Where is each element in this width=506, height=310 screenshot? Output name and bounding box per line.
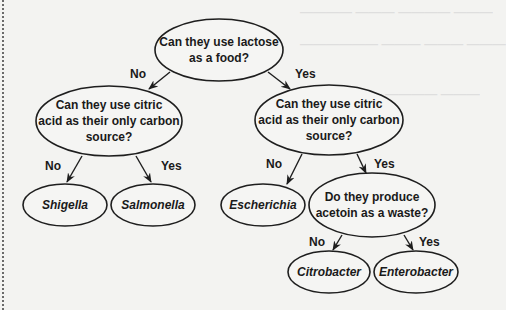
leaf-node-enterobacter: Enterobacter [374,251,458,293]
edge-arrow-citric-right-to-acetoin [357,154,366,173]
leaf-node-shigella: Shigella [23,184,107,226]
node-text-line: source? [86,130,133,144]
question-node-acetoin: Do they produceacetoin as a waste? [309,173,435,237]
node-text-line: source? [306,129,353,143]
edge-arrow-lactose-to-citric-right [268,72,290,89]
leaf-node-escherichia: Escherichia [221,184,305,226]
leaf-node-salmonella: Salmonella [111,184,195,226]
node-text-line: acetoin as a waste? [316,206,429,220]
node-text-line: as a food? [189,51,249,65]
node-text-line: Enterobacter [379,265,454,279]
node-text-line: Escherichia [229,198,297,212]
edge-label-no: No [309,235,325,249]
edge-arrow-citric-left-to-salmonella [136,156,151,182]
edge-label-yes: Yes [161,159,182,173]
question-node-lactose: Can they use lactoseas a food? [155,19,283,81]
edge-arrow-lactose-to-citric-left [149,72,170,89]
edge-label-yes: Yes [374,157,395,171]
question-node-citric-right: Can they use citricacid as their only ca… [255,85,403,155]
edge-label-yes: Yes [419,235,440,249]
node-text-line: Can they use citric [276,97,383,111]
node-ellipse [309,173,435,237]
edge-arrow-citric-right-to-escherichia [287,154,302,184]
leaf-node-citrobacter: Citrobacter [288,251,370,293]
node-text-line: Can they use citric [56,98,163,112]
node-text-line: Shigella [42,198,88,212]
node-text-line: Can they use lactose [159,35,279,49]
node-text-line: Salmonella [121,198,185,212]
edge-label-yes: Yes [295,67,316,81]
edge-label-no: No [130,67,146,81]
question-node-citric-left: Can they use citricacid as their only ca… [36,86,182,156]
edge-label-no: No [45,159,61,173]
node-text-line: Do they produce [325,190,420,204]
edge-arrow-citric-left-to-shigella [67,156,82,182]
edge-arrow-acetoin-to-enterobacter [404,235,413,250]
node-text-line: Citrobacter [297,265,362,279]
edge-arrow-acetoin-to-citrobacter [333,235,342,250]
node-text-line: acid as their only carbon [38,114,179,128]
node-text-line: acid as their only carbon [258,113,399,127]
edge-label-no: No [266,157,282,171]
node-ellipse [155,19,283,81]
